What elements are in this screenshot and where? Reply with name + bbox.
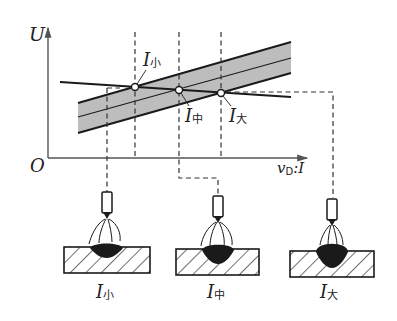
weld-label-large: I大 bbox=[319, 281, 338, 302]
point-large bbox=[218, 90, 225, 97]
arc-medium bbox=[201, 222, 232, 246]
electrode-tip-small bbox=[103, 212, 111, 219]
label-point-large: I大 bbox=[228, 105, 247, 126]
weld-label-medium: I中 bbox=[206, 281, 225, 302]
dashed-guide-large bbox=[226, 92, 333, 198]
x-axis-label: vD:I bbox=[277, 159, 305, 177]
y-axis-label: U bbox=[29, 23, 46, 45]
origin-label: O bbox=[30, 155, 45, 176]
electrode-large bbox=[327, 199, 337, 220]
label-point-small: I小 bbox=[142, 49, 161, 70]
label-point-medium: I中 bbox=[184, 105, 203, 126]
arc-large bbox=[320, 225, 343, 245]
electrode-medium bbox=[213, 196, 223, 217]
x-axis-label-tail: :I bbox=[293, 159, 305, 177]
arc-characteristic-diagram: U O vD:I I小 I中 I大 I小 bbox=[0, 0, 397, 321]
weld-large: I大 bbox=[290, 199, 374, 302]
weld-medium: I中 bbox=[176, 196, 259, 302]
arc-small bbox=[89, 219, 120, 244]
leader-small bbox=[137, 70, 146, 84]
electrode-tip-large bbox=[328, 219, 336, 226]
weld-label-small: I小 bbox=[95, 281, 114, 302]
electrode-small bbox=[102, 192, 112, 213]
weld-small: I小 bbox=[64, 192, 150, 302]
point-small bbox=[132, 84, 139, 91]
point-medium bbox=[176, 87, 183, 94]
